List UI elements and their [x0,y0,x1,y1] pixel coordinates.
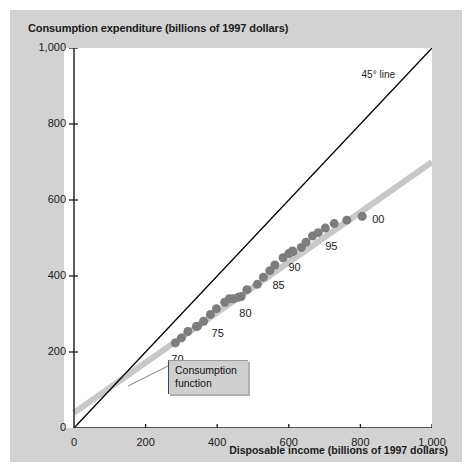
plot-svg [64,48,432,428]
data-point [289,247,298,256]
line-45-degree [74,48,432,428]
point-year-label: 95 [325,240,337,252]
x-tick-label: 200 [121,436,171,448]
line45-label: 45° line [362,69,395,80]
data-point [199,317,208,326]
y-tick-label: 1,000 [22,41,66,53]
y-tick-label: 600 [22,193,66,205]
point-year-label: 80 [239,307,251,319]
x-axis-title: Disposable income (billions of 1997 doll… [229,444,448,456]
data-point [183,327,192,336]
point-year-label: 75 [212,327,224,339]
data-point [177,333,186,342]
y-tick-label: 400 [22,269,66,281]
point-year-label: 00 [372,213,384,225]
plot-area [64,48,432,428]
chart-title: Consumption expenditure (billions of 199… [28,22,288,34]
data-point [242,285,251,294]
data-point [330,219,339,228]
data-point [358,212,367,221]
y-tick-label: 0 [22,421,66,433]
data-point [342,216,351,225]
consumption-function-line [74,162,432,413]
y-tick-label: 800 [22,117,66,129]
data-point [259,273,268,282]
data-point [270,260,279,269]
data-point [253,280,262,289]
consumption-function-callout: Consumption function [168,360,248,394]
data-point [321,224,330,233]
x-tick-label: 0 [49,436,99,448]
point-year-label: 85 [272,279,284,291]
callout-line-1: Consumption [175,364,243,377]
point-year-label: 90 [288,261,300,273]
y-tick-label: 200 [22,345,66,357]
callout-line-2: function [175,377,243,390]
figure-panel: Consumption expenditure (billions of 199… [10,10,462,462]
data-point [212,304,221,313]
data-point [237,292,246,301]
